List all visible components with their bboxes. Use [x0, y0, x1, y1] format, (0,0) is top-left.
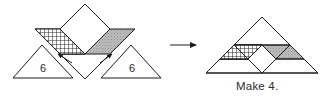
- figure-caption: Make 4.: [236, 79, 278, 93]
- arrow-up-right-icon: [58, 54, 72, 63]
- diagram-canvas: 6 6: [0, 0, 331, 99]
- right-triangle-label: 6: [129, 62, 135, 74]
- result-large-triangle: [206, 17, 318, 73]
- geometry-figure: 6 6: [0, 0, 331, 99]
- left-triangle-label: 6: [40, 62, 46, 74]
- arrow-up-left-icon: [100, 54, 112, 63]
